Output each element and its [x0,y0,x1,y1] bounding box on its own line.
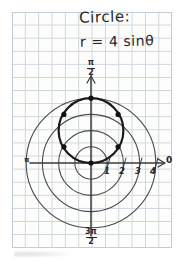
radial-tick-label-3: 3 [135,166,141,176]
plot-point-120deg [61,112,66,117]
axis-label-3pi-over-2-denominator: 2 [82,238,100,246]
graph-equation: r = 4 sinθ [80,33,155,48]
radial-tick-label-4: 4 [150,166,156,176]
graph-title: Circle: [79,9,131,25]
radial-tick-label-2: 2 [119,166,125,176]
plot-point-150deg [61,144,66,149]
axis-label-pi-over-2-numerator: π [83,59,99,67]
radial-tick-label-1: 1 [104,166,110,176]
axis-label-3pi-over-2-numerator: 3π [82,228,100,236]
axis-label-pi-over-2-denominator: 2 [83,69,99,77]
axis-label-pi: π [24,157,30,164]
axis-label-zero: 0 [166,156,172,165]
plot-point-30deg [116,144,121,149]
plot-point-origin [88,160,93,165]
plot-point-60deg [116,112,121,117]
polar-axes [30,76,164,236]
axis-label-3pi-over-2: 3π 2 [82,228,100,246]
axis-label-pi-over-2: π 2 [83,59,99,77]
plot-point-top [88,96,93,101]
polar-graph-screenshot: Circle: r = 4 sinθ π 2 3π 2 π 0 1 2 3 4 [0,0,182,259]
axis-arrowheads [87,76,165,167]
